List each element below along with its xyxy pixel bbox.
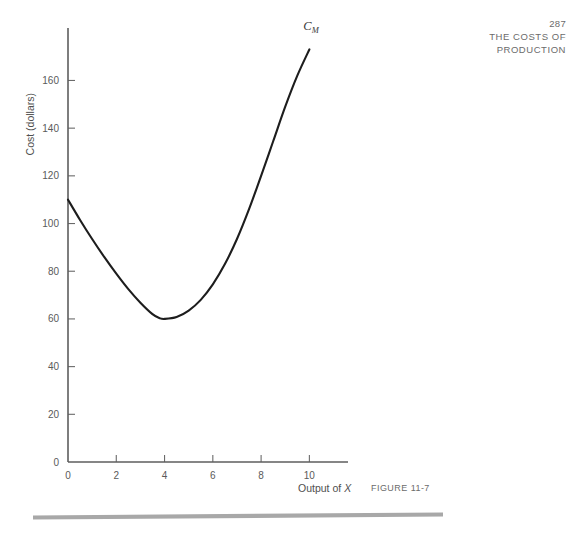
y-tick-label: 80	[48, 266, 60, 277]
x-axis-title-variable: X	[344, 482, 351, 494]
bottom-rule-container	[0, 508, 584, 528]
x-tick-label: 10	[304, 470, 316, 481]
x-tick-label: 8	[258, 470, 264, 481]
y-tick-label: 40	[48, 361, 60, 372]
y-axis-tick-labels: 020406080100120140160	[42, 75, 59, 468]
y-tick-label: 60	[48, 313, 60, 324]
curve-label-cm: CM	[303, 19, 319, 35]
x-axis-title: Output of X	[298, 482, 351, 494]
x-axis-title-prefix: Output of	[298, 482, 344, 494]
y-axis-title: Cost (dollars)	[24, 93, 36, 155]
y-tick-label: 20	[48, 409, 60, 420]
x-axis-tick-labels: 0246810	[65, 470, 315, 481]
x-tick-label: 6	[210, 470, 216, 481]
bottom-rule	[0, 508, 584, 528]
y-tick-label: 160	[42, 75, 59, 86]
axis-tick-marks	[68, 80, 309, 462]
y-tick-label: 100	[42, 218, 59, 229]
x-tick-label: 2	[113, 470, 119, 481]
figure-caption-row: Output of X FIGURE 11-7	[0, 482, 584, 498]
cost-curve-plot: 020406080100120140160 0246810 Cost (doll…	[0, 0, 584, 537]
marginal-cost-curve	[68, 49, 309, 319]
y-tick-label: 0	[53, 457, 59, 468]
figure-11-7: 020406080100120140160 0246810 Cost (doll…	[0, 0, 584, 537]
x-tick-label: 0	[65, 470, 71, 481]
figure-number-label: FIGURE 11-7	[371, 483, 430, 493]
x-tick-label: 4	[162, 470, 168, 481]
curve-label-subscript: M	[311, 25, 320, 35]
bottom-rule-line	[33, 515, 443, 518]
y-tick-label: 120	[42, 170, 59, 181]
y-tick-label: 140	[42, 123, 59, 134]
